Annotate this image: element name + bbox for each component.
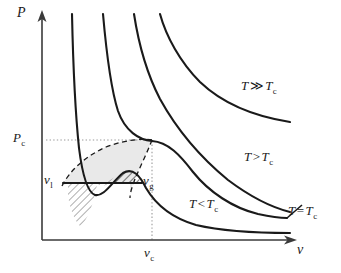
- vg-base: v: [143, 173, 149, 188]
- iso2-lead: T: [288, 203, 295, 218]
- iso2-operator: =: [297, 203, 304, 218]
- isotherm-label-t-equal-tc: T=Tc: [288, 204, 317, 220]
- pc-tick-subscript: c: [21, 138, 25, 148]
- iso3-trail: T: [207, 196, 214, 211]
- isotherm-label-t-less-tc: T<Tc: [189, 197, 218, 213]
- iso0-operator: ≫: [250, 78, 264, 93]
- isotherm-curve-t-much-greater-tc: [160, 14, 290, 122]
- pv-diagram-svg: [0, 0, 341, 273]
- iso1-operator: >: [253, 149, 260, 164]
- iso3-operator: <: [198, 196, 205, 211]
- vc-tick-subscript: c: [150, 253, 154, 263]
- x-axis-label: v: [297, 243, 303, 257]
- isotherm-curve-t-greater-tc: [134, 14, 290, 212]
- iso2-trail-subscript: c: [313, 211, 317, 221]
- iso0-lead: T: [241, 78, 248, 93]
- vc-tick-base: v: [144, 245, 150, 260]
- iso3-trail-subscript: c: [214, 204, 218, 214]
- isotherm-curve-t-less-tc: [72, 14, 290, 233]
- iso2-trail: T: [306, 203, 313, 218]
- isotherm-label-t-greater-tc: T>Tc: [244, 150, 273, 166]
- iso1-trail: T: [262, 149, 269, 164]
- isotherm-label-t-much-greater-tc: T≫Tc: [241, 79, 277, 95]
- iso0-trail-subscript: c: [273, 86, 277, 96]
- y-axis-label: P: [17, 6, 26, 20]
- vg-label: vg: [143, 174, 154, 190]
- vl-label: vl: [44, 173, 53, 189]
- iso3-lead: T: [189, 196, 196, 211]
- vl-subscript: l: [50, 180, 52, 190]
- maxwell-area-lower-hatched: [68, 183, 97, 226]
- iso1-lead: T: [244, 149, 251, 164]
- iso1-trail-subscript: c: [269, 157, 273, 167]
- iso0-trail: T: [265, 78, 272, 93]
- pc-tick-label: Pc: [13, 131, 25, 147]
- vg-subscript: g: [149, 181, 153, 191]
- pv-isotherm-figure: P v Pc vc vl vg T≫Tc T>Tc T=Tc T<Tc: [0, 0, 341, 273]
- vl-base: v: [44, 172, 50, 187]
- vc-tick-label: vc: [144, 246, 154, 262]
- pc-tick-base: P: [13, 130, 21, 145]
